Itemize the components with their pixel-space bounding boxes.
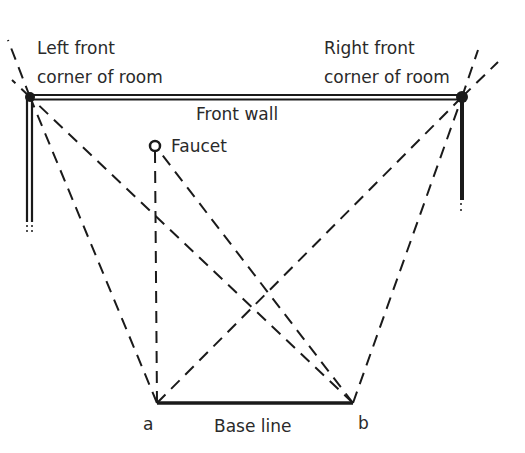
faucet-label: Faucet <box>171 136 227 156</box>
sight-line-a-left-corner <box>30 97 157 403</box>
right-corner-label-line2: corner of room <box>324 67 450 87</box>
front-wall <box>30 95 462 100</box>
point-b-label: b <box>358 413 369 433</box>
right-corner-label-line1: Right front <box>324 38 415 58</box>
sight-line-b-faucet <box>160 152 353 403</box>
left-side-wall <box>27 97 32 232</box>
base-line-label: Base line <box>214 416 291 436</box>
extension-left-1 <box>8 40 30 97</box>
faucet-icon <box>150 141 160 151</box>
point-a-label: a <box>143 414 153 434</box>
front-wall-label: Front wall <box>196 104 278 124</box>
right-side-wall <box>461 97 462 211</box>
sight-line-a-faucet <box>155 152 157 403</box>
sight-line-b-right-corner <box>353 97 462 403</box>
left-corner-label-line2: corner of room <box>37 67 163 87</box>
left-corner-label-line1: Left front <box>37 38 115 58</box>
extension-right-2 <box>462 62 498 97</box>
